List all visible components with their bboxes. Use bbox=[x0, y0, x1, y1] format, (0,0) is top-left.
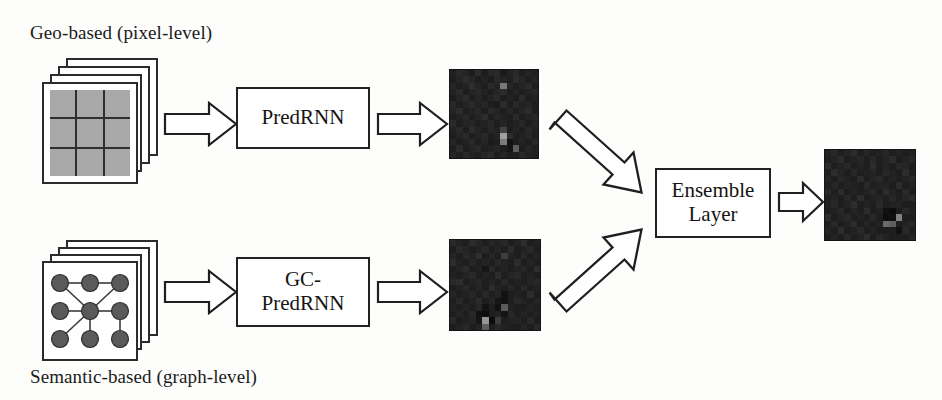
pixel-cell bbox=[50, 90, 75, 117]
arrow-heatmap-top-to-ensemble bbox=[548, 104, 668, 214]
graph-node bbox=[82, 303, 99, 320]
pixel-grid bbox=[50, 90, 130, 176]
heatmap-cell bbox=[532, 152, 538, 158]
gc-predrnn-label-line1: GC- bbox=[285, 268, 321, 292]
heatmap-predrnn-output bbox=[449, 69, 539, 159]
ensemble-label-line2: Layer bbox=[689, 203, 738, 227]
pixel-cell bbox=[77, 149, 102, 176]
geo-input-stack bbox=[42, 58, 162, 186]
graph-node bbox=[112, 303, 129, 320]
arrow-geo-to-predrnn bbox=[163, 100, 239, 148]
pixel-cell bbox=[105, 119, 130, 146]
graph-node bbox=[82, 331, 99, 348]
heatmap-final-output bbox=[824, 149, 916, 241]
pixel-cell bbox=[77, 90, 102, 117]
graph-node bbox=[112, 331, 129, 348]
pixel-cell bbox=[50, 149, 75, 176]
arrow-predrnn-to-heatmap-top bbox=[376, 100, 450, 148]
heatmap-cell bbox=[909, 234, 915, 240]
gc-predrnn-module[interactable]: GC- PredRNN bbox=[236, 257, 370, 327]
heatmap-gcpredrnn-output bbox=[449, 239, 541, 331]
pixel-cell bbox=[50, 119, 75, 146]
figure-canvas: Geo-based (pixel-level) Semantic-based (… bbox=[0, 0, 942, 400]
arrow-ensemble-to-output bbox=[777, 180, 825, 224]
predrnn-module[interactable]: PredRNN bbox=[236, 87, 370, 149]
pixel-cell bbox=[105, 149, 130, 176]
graph-nodes bbox=[52, 275, 129, 348]
heatmap-cell bbox=[534, 324, 540, 330]
pixel-cell bbox=[105, 90, 130, 117]
graph-node bbox=[112, 275, 129, 292]
graph-figure bbox=[42, 261, 138, 361]
arrow-heatmap-bottom-to-ensemble bbox=[548, 218, 668, 328]
pixel-cell bbox=[77, 119, 102, 146]
graph-node bbox=[52, 303, 69, 320]
gc-predrnn-label-line2: PredRNN bbox=[262, 292, 345, 316]
graph-node bbox=[52, 275, 69, 292]
ensemble-layer-module[interactable]: Ensemble Layer bbox=[655, 168, 771, 238]
ensemble-label-line1: Ensemble bbox=[672, 179, 755, 203]
graph-node bbox=[82, 275, 99, 292]
semantic-input-stack bbox=[42, 240, 167, 362]
arrow-semantic-to-gcpredrnn bbox=[163, 268, 239, 316]
semantic-input-caption: Semantic-based (graph-level) bbox=[30, 366, 257, 388]
graph-node bbox=[52, 331, 69, 348]
arrow-gcpredrnn-to-heatmap-bottom bbox=[376, 268, 450, 316]
geo-input-caption: Geo-based (pixel-level) bbox=[30, 22, 212, 44]
predrnn-label: PredRNN bbox=[262, 106, 345, 130]
